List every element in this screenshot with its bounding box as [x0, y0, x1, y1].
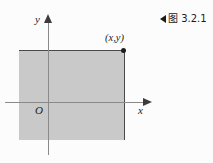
y-axis-label: y: [35, 14, 40, 25]
x-axis-arrow-icon: [143, 98, 152, 106]
y-axis-line: [48, 22, 49, 155]
figure-caption-text: 图 3.2.1: [168, 14, 207, 24]
point-marker-dot: [121, 48, 126, 53]
x-axis-label: x: [138, 105, 143, 116]
x-axis-line: [5, 102, 146, 103]
figure-caption: 图 3.2.1: [160, 14, 207, 24]
shaded-region: [19, 51, 124, 140]
region-right-boundary-line: [124, 50, 125, 140]
y-axis-arrow-icon: [44, 14, 52, 23]
left-triangle-icon: [160, 15, 166, 23]
point-coordinate-label: (x,y): [105, 33, 124, 44]
region-top-boundary-line: [19, 50, 125, 51]
figure-container: y x O (x,y) 图 3.2.1: [0, 0, 213, 163]
origin-label: O: [35, 105, 43, 116]
